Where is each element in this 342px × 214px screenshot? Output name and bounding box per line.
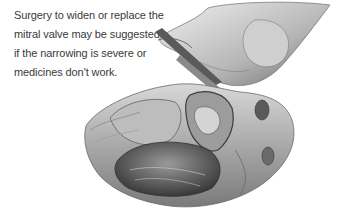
heart [85, 84, 294, 207]
gloved-hand [158, 2, 330, 85]
heart-surgery-illustration [0, 0, 342, 214]
